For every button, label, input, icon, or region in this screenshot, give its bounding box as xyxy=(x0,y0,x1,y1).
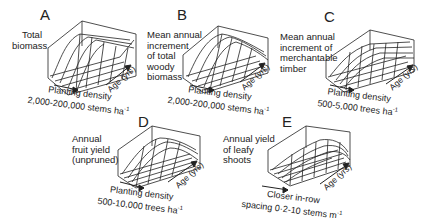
panel-d: D Annual fruit yield (unpruned) Age (yrs… xyxy=(60,108,220,218)
panel-a: A Total biomass Age (yrs) xyxy=(0,0,140,110)
surface-plot xyxy=(140,0,280,100)
surface-plot xyxy=(280,0,424,100)
panel-b: B Mean annual increment of total woody b… xyxy=(140,0,280,110)
panel-c: C Mean annual increment of merchantable … xyxy=(280,0,424,110)
panel-e: E Annual yield of leafy shoots xyxy=(220,108,390,218)
